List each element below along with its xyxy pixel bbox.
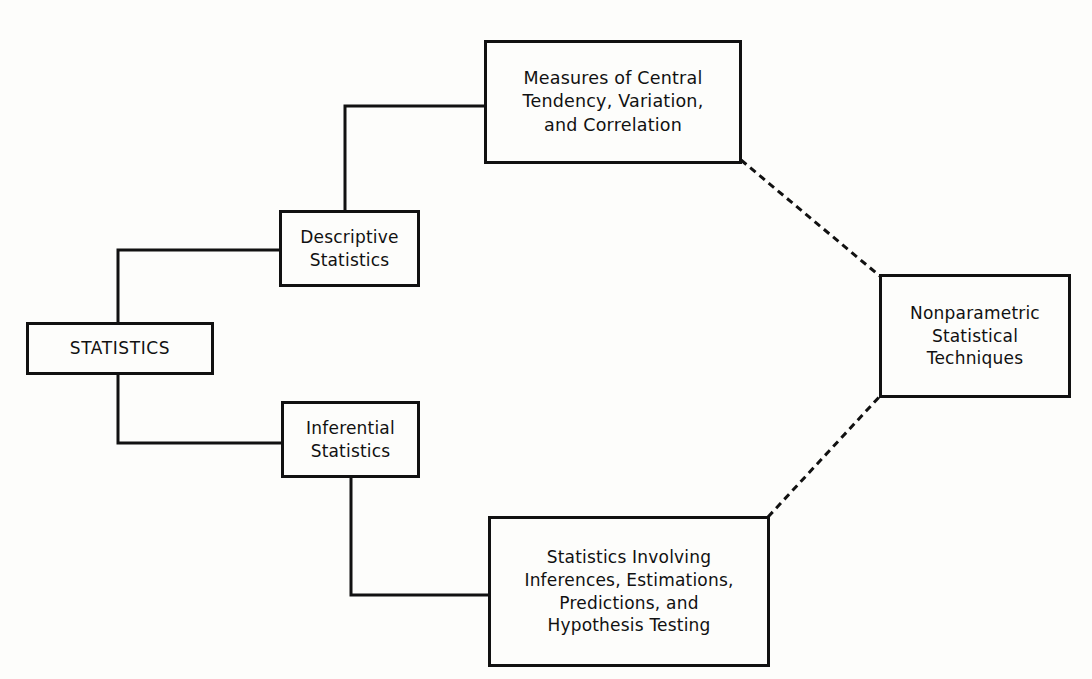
node-label-line: Inferences, Estimations,	[524, 569, 733, 592]
dashed-connector-inference-nonparametric	[768, 395, 881, 517]
connector-descriptive-measures	[345, 106, 485, 211]
connector-root-inferential	[118, 373, 282, 443]
descriptive-statistics-box: Descriptive Statistics	[279, 210, 420, 287]
nonparametric-techniques-box: Nonparametric Statistical Techniques	[879, 274, 1071, 398]
node-label-line: Measures of Central	[523, 67, 704, 91]
node-label-line: Statistics	[306, 440, 395, 463]
measures-central-tendency-box: Measures of Central Tendency, Variation,…	[484, 40, 742, 164]
node-label-line: Statistics	[300, 249, 398, 272]
inference-methods-box: Statistics Involving Inferences, Estimat…	[488, 516, 770, 667]
node-label-line: Hypothesis Testing	[524, 614, 733, 637]
inferential-statistics-box: Inferential Statistics	[281, 401, 420, 478]
statistics-root-box: STATISTICS	[26, 322, 214, 375]
node-label-line: Nonparametric	[910, 302, 1040, 325]
node-label-line: Statistics Involving	[524, 546, 733, 569]
connector-inferential-inference-methods	[351, 476, 489, 595]
dashed-connector-measures-nonparametric	[741, 160, 881, 277]
node-label-line: Statistical	[910, 325, 1040, 348]
node-label-line: Techniques	[910, 347, 1040, 370]
node-label-line: and Correlation	[523, 114, 704, 138]
node-label: STATISTICS	[70, 337, 170, 360]
node-label-line: Tendency, Variation,	[523, 90, 704, 114]
node-label-line: Inferential	[306, 417, 395, 440]
node-label-line: Descriptive	[300, 226, 398, 249]
node-label-line: Predictions, and	[524, 592, 733, 615]
connector-root-descriptive	[118, 250, 280, 323]
